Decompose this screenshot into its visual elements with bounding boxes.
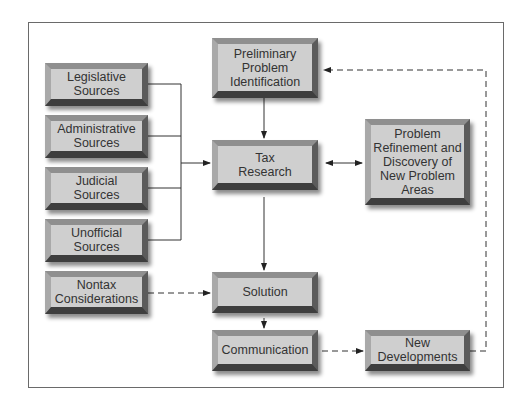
node-communication: Communication <box>212 330 318 371</box>
edge-new-to-preliminary <box>324 70 486 351</box>
node-unofficial-sources: Unofficial Sources <box>45 219 148 262</box>
node-label: Communication <box>222 343 309 357</box>
node-label: Solution <box>242 285 287 299</box>
node-label: Nontax Considerations <box>55 278 138 306</box>
node-solution: Solution <box>212 272 318 313</box>
node-administrative-sources: Administrative Sources <box>45 115 148 158</box>
node-label: Preliminary Problem Identification <box>230 47 300 89</box>
node-label: Judicial Sources <box>74 174 120 202</box>
node-new-developments: New Developments <box>365 330 470 371</box>
node-label: New Developments <box>378 336 458 364</box>
node-label: Problem Refinement and Discovery of New … <box>373 127 461 197</box>
node-label: Administrative Sources <box>57 122 136 150</box>
node-label: Tax Research <box>238 151 292 179</box>
node-judicial-sources: Judicial Sources <box>45 167 148 210</box>
node-label: Unofficial Sources <box>71 226 122 254</box>
node-problem-refinement: Problem Refinement and Discovery of New … <box>365 119 470 205</box>
node-preliminary-problem-identification: Preliminary Problem Identification <box>212 38 318 98</box>
node-legislative-sources: Legislative Sources <box>45 63 148 106</box>
node-nontax-considerations: Nontax Considerations <box>45 271 148 314</box>
node-label: Legislative Sources <box>67 70 126 98</box>
node-tax-research: Tax Research <box>212 140 318 190</box>
